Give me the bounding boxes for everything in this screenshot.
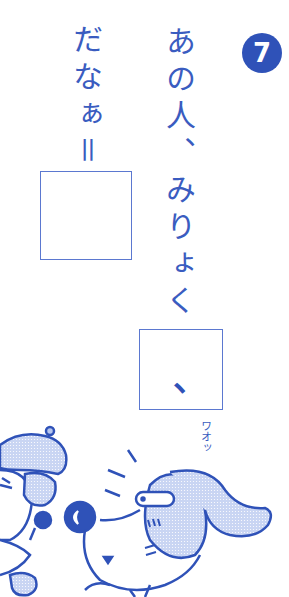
problem-number-badge: 7 — [242, 33, 282, 73]
answer-box-1[interactable] — [40, 171, 132, 260]
dog-character-icon — [65, 450, 271, 597]
poodle-character-icon — [0, 427, 66, 595]
answer-box-2[interactable]: 、 — [139, 329, 223, 410]
cartoon-illustration — [0, 420, 289, 597]
question-text-left-column: だなぁ＝ — [70, 24, 100, 172]
question-text-right-column: あの人、みりょく — [163, 26, 193, 322]
comma-mark: 、 — [173, 352, 207, 401]
